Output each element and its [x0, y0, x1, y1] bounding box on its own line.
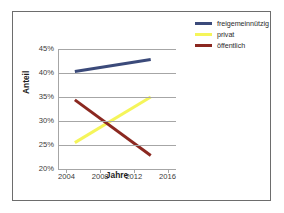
series-line-privat [75, 97, 151, 143]
y-axis-tick-label: 25% [39, 141, 54, 149]
gridline-horizontal [58, 97, 176, 98]
series-layer [58, 49, 176, 169]
y-axis-tick-label: 40% [39, 69, 54, 77]
y-axis-tick-label: 30% [39, 117, 54, 125]
series-line-freigemeinnützig [75, 60, 151, 72]
chart-plot-area: 20%25%30%35%40%45%2004200820122016 [58, 49, 176, 169]
chart-figure: freigemeinnützigprivatöffentlich 20%25%3… [12, 11, 271, 201]
gridline-horizontal [58, 49, 176, 50]
x-axis-title: Jahre [58, 170, 176, 180]
y-axis-title: Anteil [21, 71, 31, 94]
gridline-horizontal [58, 145, 176, 146]
gridline-horizontal [58, 73, 176, 74]
gridline-horizontal [58, 121, 176, 122]
y-axis-tick-label: 20% [39, 165, 54, 173]
series-line-öffentlich [75, 100, 151, 156]
chart-plot-wrapper: 20%25%30%35%40%45%2004200820122016 Antei… [13, 12, 272, 202]
y-axis-tick-label: 45% [39, 45, 54, 53]
y-axis-tick-label: 35% [39, 93, 54, 101]
